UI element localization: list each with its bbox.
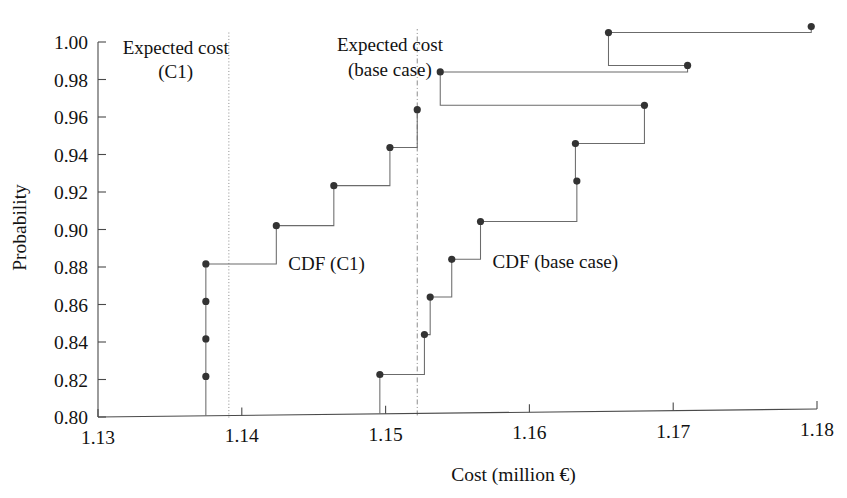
x-tick-label-1: 1.14 xyxy=(225,425,259,446)
annotations-group: CDF (C1)CDF (base case)Expected cost(C1)… xyxy=(123,34,618,275)
cdf-c1-label: CDF (C1) xyxy=(288,253,365,275)
chart-canvas: 1.131.141.151.161.171.180.800.820.840.86… xyxy=(0,0,847,498)
data-point xyxy=(386,144,393,151)
data-point xyxy=(202,335,209,342)
y-tick-label-5: 0.90 xyxy=(54,220,88,241)
data-point xyxy=(202,373,209,380)
y-tick-label-7: 0.94 xyxy=(54,145,88,166)
data-point xyxy=(573,177,580,184)
expected-cost-base-label-1: Expected cost xyxy=(337,34,444,55)
data-point xyxy=(808,23,815,30)
data-point xyxy=(605,29,612,36)
data-series-group xyxy=(202,23,815,416)
data-point xyxy=(572,140,579,147)
y-tick-label-8: 0.96 xyxy=(54,107,88,128)
data-point xyxy=(202,260,209,267)
cdf-chart-figure: 1.131.141.151.161.171.180.800.820.840.86… xyxy=(0,0,847,498)
x-tick-label-0: 1.13 xyxy=(81,427,115,448)
y-tick-label-9: 0.98 xyxy=(54,70,88,91)
cdf-base-case-label: CDF (base case) xyxy=(492,251,618,273)
y-tick-label-6: 0.92 xyxy=(54,182,88,203)
x-tick-label-5: 1.18 xyxy=(800,419,834,440)
y-tick-label-3: 0.86 xyxy=(54,295,88,316)
x-tick-label-2: 1.15 xyxy=(369,424,403,445)
expected-cost-base-label-2: (base case) xyxy=(348,59,432,81)
step-path-1 xyxy=(380,27,811,414)
y-axis-title: Probability xyxy=(9,184,30,271)
y-tick-label-2: 0.84 xyxy=(54,332,88,353)
expected-cost-c1-label-2: (C1) xyxy=(158,61,193,83)
data-point xyxy=(273,222,280,229)
y-tick-label-0: 0.80 xyxy=(54,407,88,428)
data-point xyxy=(414,106,421,113)
y-tick-label-10: 1.00 xyxy=(54,32,88,53)
reference-lines-group xyxy=(229,29,417,417)
data-point xyxy=(448,256,455,263)
x-axis-title: Cost (million €) xyxy=(451,464,576,486)
data-point xyxy=(330,182,337,189)
x-tick-label-3: 1.16 xyxy=(512,422,546,443)
data-point xyxy=(437,68,444,75)
y-tick-label-1: 0.82 xyxy=(54,370,88,391)
data-point xyxy=(477,218,484,225)
data-point xyxy=(684,62,691,69)
y-tick-label-4: 0.88 xyxy=(54,257,88,278)
data-point xyxy=(421,331,428,338)
data-point xyxy=(641,102,648,109)
data-point xyxy=(202,298,209,305)
tick-labels-group: 1.131.141.151.161.171.180.800.820.840.86… xyxy=(54,32,834,448)
data-point xyxy=(376,371,383,378)
x-tick-label-4: 1.17 xyxy=(656,421,690,442)
data-point xyxy=(427,293,434,300)
expected-cost-c1-label-1: Expected cost xyxy=(123,37,230,58)
